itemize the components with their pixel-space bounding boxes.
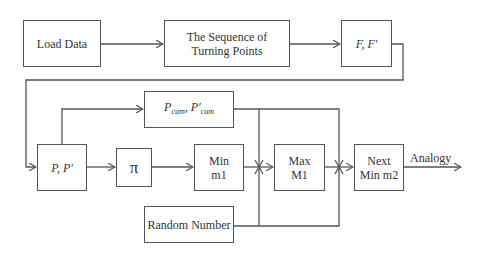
min-m1-line1: Min: [209, 154, 229, 168]
f-fprime-label: F, F': [356, 37, 378, 51]
sequence-label-line2: Turning Points: [191, 44, 262, 58]
random-number-node: Random Number: [144, 206, 234, 243]
next-min-m2-line2: Min m2: [360, 168, 398, 182]
max-m1-node: Max M1: [274, 144, 325, 191]
min-m1-line2: m1: [211, 168, 226, 182]
load-data-label: Load Data: [37, 37, 87, 51]
turning-points-sequence-node: The Sequence of Turning Points: [164, 20, 290, 67]
max-m1-line1: Max: [289, 154, 311, 168]
pcum-node: Pcum, P'cum: [144, 91, 234, 128]
load-data-node: Load Data: [23, 20, 101, 67]
p-pprime-label: P, P': [51, 161, 73, 175]
min-m1-node: Min m1: [194, 144, 244, 191]
pcum-label: Pcum, P'cum: [164, 100, 214, 119]
pi-node: π: [116, 148, 152, 187]
analogy-output-label: Analogy: [410, 151, 451, 166]
next-min-m2-node: Next Min m2: [354, 144, 404, 191]
random-number-label: Random Number: [148, 218, 231, 232]
pi-label: π: [130, 161, 139, 175]
sequence-label-line1: The Sequence of: [187, 30, 268, 44]
f-fprime-node: F, F': [341, 20, 392, 67]
max-m1-line2: M1: [291, 168, 308, 182]
next-min-m2-line1: Next: [367, 154, 390, 168]
p-pprime-node: P, P': [37, 144, 87, 191]
